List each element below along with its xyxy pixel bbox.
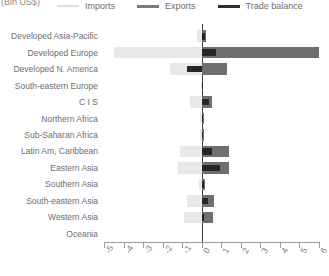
axis-tick-label: 5 [298, 246, 309, 255]
bar-imports[interactable] [180, 146, 202, 158]
category-label: Sub-Saharan Africa [24, 130, 98, 140]
category-label: Latin Am, Caribbean [21, 146, 98, 156]
axis-tick-label: 3 [259, 246, 270, 255]
axis-tick-label: -1 [181, 243, 193, 255]
bar-trade-balance[interactable] [202, 132, 204, 139]
chart-legend: Imports Exports Trade balance [57, 1, 303, 11]
legend-item-exports[interactable]: Exports [137, 1, 196, 11]
category-label: Northern Africa [41, 114, 98, 124]
axis-tick-label: -2 [162, 243, 174, 255]
bar-trade-balance[interactable] [202, 181, 204, 188]
legend-label-trade-balance: Trade balance [246, 1, 303, 11]
bar-imports[interactable] [187, 195, 202, 207]
bar-trade-balance[interactable] [202, 49, 217, 56]
bar-imports[interactable] [178, 162, 201, 174]
category-label: C I S [79, 97, 98, 107]
bar-row [104, 94, 319, 110]
bar-trade-balance[interactable] [187, 66, 202, 73]
bar-row [104, 127, 319, 143]
bar-row [104, 61, 319, 77]
bar-row [104, 28, 319, 44]
value-axis: -5-4-3-2-10123456 [104, 242, 319, 276]
bar-trade-balance[interactable] [202, 214, 204, 221]
bar-exports[interactable] [202, 47, 319, 59]
unit-label: (Bln US$) [1, 0, 40, 7]
bar-trade-balance[interactable] [202, 99, 209, 106]
plot-area [104, 28, 319, 242]
legend-label-exports: Exports [165, 1, 196, 11]
axis-tick-label: 1 [220, 246, 231, 255]
bar-row [104, 44, 319, 60]
category-label: Oceania [66, 229, 98, 239]
bar-row [104, 226, 319, 242]
bar-imports[interactable] [190, 96, 202, 108]
legend-label-imports: Imports [85, 1, 115, 11]
line-swatch-icon-exports [137, 5, 159, 8]
bar-trade-balance[interactable] [202, 82, 204, 89]
axis-line [104, 242, 319, 243]
bar-trade-balance[interactable] [202, 148, 213, 155]
axis-tick-label: 4 [279, 246, 290, 255]
category-label: Developed Europe [28, 48, 98, 58]
category-label: Eastern Asia [50, 163, 98, 173]
bar-imports[interactable] [184, 212, 202, 224]
category-label: Developed Asia-Pacific [11, 31, 98, 41]
bar-trade-balance[interactable] [202, 198, 208, 205]
category-label: Developed N. America [13, 64, 98, 74]
bar-exports[interactable] [202, 63, 227, 75]
axis-tick-label: -5 [103, 243, 115, 255]
category-label: Southern Asia [45, 179, 98, 189]
bar-trade-balance[interactable] [202, 165, 221, 172]
line-swatch-icon-trade-balance [218, 5, 240, 8]
category-label: South-eastern Europe [15, 81, 98, 91]
legend-item-trade-balance[interactable]: Trade balance [218, 1, 303, 11]
category-label: South-eastern Asia [26, 196, 98, 206]
axis-tick-label: 0 [201, 246, 212, 255]
bar-row [104, 209, 319, 225]
bar-row [104, 77, 319, 93]
category-label: Western Asia [48, 212, 98, 222]
axis-tick-label: 6 [318, 246, 329, 255]
axis-tick-label: -3 [142, 243, 154, 255]
bar-imports[interactable] [114, 47, 202, 59]
bar-row [104, 193, 319, 209]
bar-row [104, 176, 319, 192]
bar-row [104, 110, 319, 126]
bar-trade-balance[interactable] [202, 115, 204, 122]
axis-tick-label: -4 [123, 243, 135, 255]
axis-tick-label: 2 [240, 246, 251, 255]
bar-row [104, 160, 319, 176]
category-axis-labels: Developed Asia-PacificDeveloped EuropeDe… [0, 28, 100, 242]
line-swatch-icon-imports [57, 5, 79, 7]
bar-trade-balance[interactable] [202, 33, 205, 40]
legend-item-imports[interactable]: Imports [57, 1, 115, 11]
bar-row [104, 143, 319, 159]
